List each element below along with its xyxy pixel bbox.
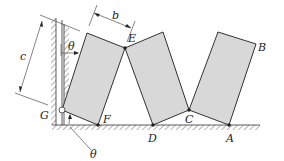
pin-A xyxy=(227,123,231,127)
label-G: G xyxy=(40,109,49,122)
label-theta-top: θ xyxy=(68,40,75,53)
label-theta-bottom: θ xyxy=(90,148,97,161)
block-3 xyxy=(189,32,256,125)
mechanism-diagram: b c θ θ E B G F D C A xyxy=(0,0,284,161)
pin-D xyxy=(151,123,155,127)
label-C: C xyxy=(185,113,194,126)
label-F: F xyxy=(102,113,111,126)
label-c: c xyxy=(20,50,26,63)
label-E: E xyxy=(127,32,136,45)
label-B: B xyxy=(257,41,266,54)
pin-C xyxy=(187,108,191,112)
pin-E xyxy=(123,46,127,50)
pin-F xyxy=(96,123,100,127)
label-D: D xyxy=(147,132,157,145)
pin-G xyxy=(59,107,65,113)
label-A: A xyxy=(225,132,234,145)
label-b: b xyxy=(112,9,119,22)
block-2 xyxy=(125,32,189,125)
